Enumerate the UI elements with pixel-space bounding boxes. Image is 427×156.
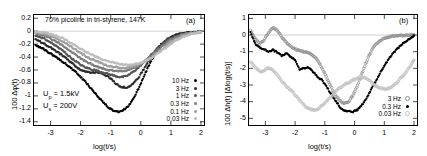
y-tick-label: 0 bbox=[223, 31, 246, 38]
legend-label: 3 Hz bbox=[176, 85, 189, 92]
x-tick-label: 0 bbox=[345, 129, 365, 136]
y-tick-label: -0.6 bbox=[8, 66, 31, 73]
legend-label: 3 Hz bbox=[388, 95, 401, 102]
panel-a-annotation-us: Us = 200V bbox=[43, 101, 77, 112]
legend-entry: 3 Hz bbox=[343, 95, 413, 103]
y-tick-label: 0.2 bbox=[8, 14, 31, 21]
legend-label: 0.03 Hz bbox=[167, 115, 189, 122]
legend-entry: 0.03 Hz bbox=[343, 110, 413, 118]
x-tick-label: -1 bbox=[101, 129, 121, 136]
legend-marker-icon bbox=[189, 102, 201, 105]
legend-marker-icon bbox=[401, 96, 413, 101]
figure-container: 100 Δφ(t) 70% picoline in tri-styrene, 1… bbox=[0, 0, 427, 156]
x-tick-label: -2 bbox=[285, 129, 305, 136]
y-tick-label: -0.4 bbox=[8, 53, 31, 60]
y-tick-label: -1.2 bbox=[8, 104, 31, 111]
panel-a: 100 Δφ(t) 70% picoline in tri-styrene, 1… bbox=[0, 0, 213, 156]
y-tick-label: 1 bbox=[223, 14, 246, 21]
legend-label: 0.03 Hz bbox=[379, 110, 401, 117]
legend-marker-icon bbox=[401, 105, 413, 108]
legend-entry: 0.3 Hz bbox=[343, 103, 413, 111]
legend-entry: 0.1 Hz bbox=[129, 107, 201, 115]
y-tick-label: -1 bbox=[223, 47, 246, 54]
panel-a-annotation-up: Up = 1.5kV bbox=[43, 89, 79, 100]
legend-marker-icon bbox=[189, 117, 201, 120]
x-tick-label: 1 bbox=[161, 129, 181, 136]
legend-entry: 1 Hz bbox=[129, 92, 201, 100]
annot-us-value: = 200V bbox=[51, 101, 77, 110]
y-tick-label: 0 bbox=[8, 27, 31, 34]
x-tick-label: 0 bbox=[131, 129, 151, 136]
legend-marker-icon bbox=[189, 87, 201, 90]
y-tick-label: -2 bbox=[223, 64, 246, 71]
legend-entry: 3 Hz bbox=[129, 85, 201, 93]
y-tick-label: -3 bbox=[223, 81, 246, 88]
panel-a-id: (a) bbox=[186, 16, 195, 25]
legend-label: 0.1 Hz bbox=[170, 108, 189, 115]
y-tick-label: -4 bbox=[223, 97, 246, 104]
panel-b-legend: 3 Hz0.3 Hz0.03 Hz bbox=[343, 95, 413, 118]
x-tick-label: -2 bbox=[71, 129, 91, 136]
legend-entry: 10 Hz bbox=[129, 77, 201, 85]
legend-label: 1 Hz bbox=[176, 92, 189, 99]
y-tick-label: -1.4 bbox=[8, 117, 31, 124]
legend-entry: 0.03 Hz bbox=[129, 115, 201, 123]
legend-entry: 0.3 Hz bbox=[129, 100, 201, 108]
annot-up-value: = 1.5kV bbox=[51, 89, 79, 98]
x-tick-label: 2 bbox=[404, 129, 424, 136]
legend-marker-icon bbox=[401, 111, 413, 116]
panel-a-legend: 10 Hz3 Hz1 Hz0.3 Hz0.1 Hz0.03 Hz bbox=[129, 77, 201, 123]
y-tick-label: -0.2 bbox=[8, 40, 31, 47]
y-tick-label: -0.8 bbox=[8, 78, 31, 85]
panel-b-xlabel: log(t/s) bbox=[308, 142, 331, 151]
panel-a-xlabel: log(t/s) bbox=[93, 142, 116, 151]
panel-b-id: (b) bbox=[399, 16, 408, 25]
x-tick-label: -3 bbox=[255, 129, 275, 136]
legend-marker-icon bbox=[189, 110, 201, 113]
legend-marker-icon bbox=[189, 94, 201, 97]
panel-b: 100 Δh(t) [Δlog(t/s)] (b) 3 Hz0.3 Hz0.03… bbox=[213, 0, 426, 156]
y-tick-label: -5 bbox=[223, 114, 246, 121]
x-tick-label: -1 bbox=[315, 129, 335, 136]
legend-label: 0.3 Hz bbox=[382, 103, 401, 110]
legend-label: 0.3 Hz bbox=[170, 100, 189, 107]
panel-a-title: 70% picoline in tri-styrene, 147K bbox=[45, 16, 145, 23]
x-tick-label: 1 bbox=[374, 129, 394, 136]
legend-label: 10 Hz bbox=[172, 77, 189, 84]
y-tick-label: -1 bbox=[8, 91, 31, 98]
x-tick-label: -3 bbox=[41, 129, 61, 136]
legend-marker-icon bbox=[189, 79, 201, 82]
x-tick-label: 2 bbox=[191, 129, 211, 136]
